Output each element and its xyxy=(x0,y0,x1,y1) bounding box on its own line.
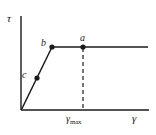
data-point-b xyxy=(49,44,54,49)
data-point-c xyxy=(34,75,39,80)
point-label-a: a xyxy=(80,33,85,43)
point-label-b: b xyxy=(41,38,46,48)
data-point-a xyxy=(80,44,85,49)
x-axis-tick-label-gamma-max: γmax xyxy=(66,114,81,126)
x-axis-label-gamma: γ xyxy=(132,113,136,124)
shear-stress-strain-figure: τ γ γmax a b c xyxy=(0,0,156,135)
gamma-max-subscript: max xyxy=(70,118,81,126)
point-label-c: c xyxy=(22,70,26,80)
y-axis-label-tau: τ xyxy=(7,13,11,24)
